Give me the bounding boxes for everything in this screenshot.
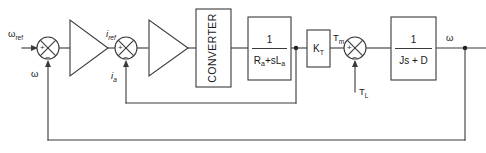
label-omega-output: ω [446,32,454,43]
torque-junction[interactable]: + − [344,37,366,62]
mechanical-numerator: 1 [411,34,417,45]
torque-constant-sub-T: T [320,49,325,56]
T-m-subscript: m [339,38,344,45]
armature-den-plus-sL: +sL [265,55,282,66]
mechanical-denominator: Js + D [399,55,428,66]
torque-junction-plus-sign: + [347,43,352,52]
speed-error-junction[interactable]: + − [37,37,59,62]
speed-controller-block[interactable] [70,20,108,76]
omega-ref-subscript: ref [15,34,23,41]
converter-block-label: CONVERTER [206,13,218,82]
torque-constant-block[interactable]: KT [307,30,330,67]
armature-den-R: R [254,55,261,66]
label-T-m: Tm [333,32,344,45]
T-L-subscript: L [365,92,369,99]
armature-numerator: 1 [267,34,273,45]
label-T-L: TL [359,86,369,99]
armature-den-sub-a2: a [281,60,285,67]
control-system-schematic: + − + − + − CONVERTER [0,0,486,153]
label-i-ref: iref [106,28,117,41]
block-diagram-canvas: + − + − + − CONVERTER [0,0,486,153]
speed-junction-plus-sign: + [40,43,45,52]
current-controller-block[interactable] [149,20,188,76]
current-junction-plus-sign: + [118,43,123,52]
i-a-subscript: a [113,76,117,83]
converter-block[interactable]: CONVERTER [196,9,231,87]
label-omega-feedback: ω [31,68,39,79]
i-ref-subscript: ref [108,34,117,41]
armature-denominator: Ra+sLa [254,55,286,67]
label-i-a: ia [111,70,117,83]
label-omega-ref: ωref [8,28,23,41]
armature-transfer-function-block[interactable]: 1 Ra+sLa [248,17,291,80]
current-error-junction[interactable]: + − [115,37,137,62]
mechanical-transfer-function-block[interactable]: 1 Js + D [391,17,436,80]
